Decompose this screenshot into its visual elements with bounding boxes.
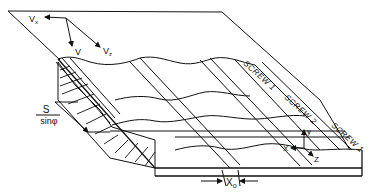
dimension-denominator: sinφ [40, 116, 58, 126]
screw-label-2: SCREW 2 [283, 93, 319, 126]
screw-channel-diagram: Vx V Vz [0, 0, 382, 196]
velocity-vectors: Vx V Vz [29, 14, 112, 57]
vx-label: Vx [29, 14, 38, 25]
vz-label: Vz [103, 46, 112, 57]
offset-dimension: Xo [201, 170, 258, 189]
dimension-arrow [55, 102, 88, 132]
moving-plate-outline [8, 11, 350, 150]
z-axis-label: Z [314, 155, 319, 164]
offset-label: Xo [226, 177, 237, 189]
y-axis-label: y [307, 127, 311, 136]
vx-arrow [45, 17, 66, 18]
screw-label-1: SCREW 1 [242, 59, 278, 92]
x-axis-label: X [283, 144, 289, 153]
v-label: V [75, 47, 81, 57]
dimension-numerator: S [43, 104, 50, 115]
